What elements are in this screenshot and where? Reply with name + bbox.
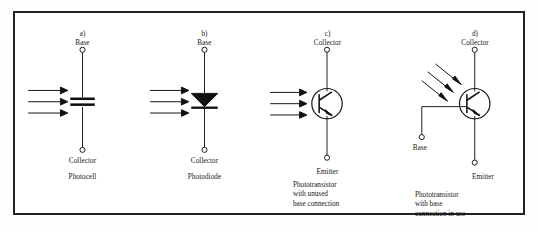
- panel-d-symbol-diagram: [395, 13, 527, 213]
- panel-photocell: a) Base Collector Photocell: [15, 13, 150, 213]
- panel-a-light-arrows: [28, 87, 68, 116]
- panel-d-emitter-node: [472, 160, 477, 165]
- panel-photodiode: b) Base Collector Photodiode: [137, 13, 272, 213]
- panel-d-base-lead: [422, 107, 467, 135]
- panel-c-collector-node: [324, 47, 329, 52]
- panel-c-emitter-arrowhead: [325, 109, 332, 115]
- panel-phototransistor-base-in-use: d) Collector Emitter Base Phototransisto…: [395, 13, 527, 213]
- panel-a-symbol-diagram: [15, 13, 150, 213]
- panel-c-transistor-envelope: [312, 88, 342, 118]
- panel-phototransistor-unused-base: c) Collector Emitter Phototransistor wit…: [255, 13, 400, 213]
- panel-b-bottom-terminal-node: [202, 147, 207, 152]
- figure-root: a) Base Collector Photocell: [0, 0, 538, 232]
- panel-a-photocell-element: [70, 99, 95, 105]
- panel-b-symbol-diagram: [137, 13, 272, 213]
- panel-d-light-arrows: [422, 64, 461, 101]
- panel-d-base-node: [419, 135, 424, 140]
- figure-border-frame: a) Base Collector Photocell: [13, 11, 525, 215]
- panel-a-bottom-terminal-node: [80, 147, 85, 152]
- panel-d-transistor-internals: [467, 92, 480, 116]
- panel-c-symbol-diagram: [255, 13, 400, 213]
- panel-b-light-arrows: [150, 87, 189, 116]
- panel-a-top-terminal-node: [80, 47, 85, 52]
- panel-d-transistor-envelope: [460, 88, 490, 118]
- panel-b-diode-triangle: [191, 93, 217, 106]
- panel-c-light-arrows: [270, 89, 307, 118]
- panel-b-top-terminal-node: [202, 47, 207, 52]
- panel-c-emitter-node: [324, 155, 329, 160]
- panel-d-collector-node: [472, 47, 477, 52]
- panel-d-emitter-arrowhead: [473, 109, 480, 115]
- panel-c-transistor-internals: [319, 92, 332, 116]
